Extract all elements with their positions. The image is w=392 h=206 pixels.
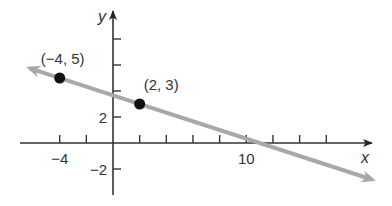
coordinate-plane: (−4, 5)(2, 3) y x −410 2−2 bbox=[0, 0, 392, 206]
x-tick-labels: −410 bbox=[51, 150, 255, 167]
point-label: (2, 3) bbox=[144, 76, 179, 93]
x-tick-label: 10 bbox=[238, 150, 255, 167]
y-ticks bbox=[113, 39, 121, 169]
data-point bbox=[134, 99, 145, 110]
x-tick-label: −4 bbox=[51, 150, 68, 167]
data-point bbox=[54, 73, 65, 84]
line-series bbox=[30, 68, 372, 179]
y-axis-label: y bbox=[97, 8, 107, 25]
data-points: (−4, 5)(2, 3) bbox=[41, 50, 179, 110]
x-axis-label: x bbox=[360, 149, 370, 166]
y-tick-label: 2 bbox=[99, 109, 107, 126]
y-tick-label: −2 bbox=[90, 161, 107, 178]
x-ticks bbox=[60, 135, 327, 143]
point-label: (−4, 5) bbox=[41, 50, 85, 67]
